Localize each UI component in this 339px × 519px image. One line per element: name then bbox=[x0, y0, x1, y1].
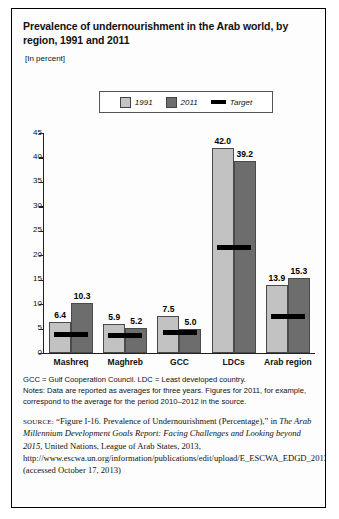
bar-value-label: 5.2 bbox=[130, 316, 142, 326]
bar-value-label: 7.5 bbox=[163, 304, 175, 314]
y-axis-tick-mark bbox=[39, 353, 43, 354]
target-marker bbox=[108, 333, 142, 338]
target-marker bbox=[163, 330, 197, 335]
bar-value-label: 5.9 bbox=[108, 312, 120, 322]
source-text-part-1: “Figure I-16. Prevalence of Undernourish… bbox=[54, 416, 279, 426]
y-axis-tick-mark bbox=[39, 133, 43, 134]
x-axis-label-arab-region: Arab region bbox=[264, 357, 312, 367]
bar-group: 6.410.3 bbox=[44, 133, 98, 353]
x-axis-label-mashreq: Mashreq bbox=[54, 357, 89, 367]
notes-line-1: Notes: Data are reported as averages for… bbox=[23, 386, 317, 397]
bar-1991: 6.4 bbox=[49, 322, 71, 353]
notes-line-2: correspond to the average for the period… bbox=[23, 397, 317, 408]
y-axis-tick-mark bbox=[39, 231, 43, 232]
bar-1991: 5.9 bbox=[103, 324, 125, 353]
figure-container: Prevalence of undernourishment in the Ar… bbox=[11, 8, 326, 508]
y-axis-tick-label: 40 bbox=[14, 152, 42, 161]
bar-1991: 7.5 bbox=[157, 316, 179, 353]
figure-notes: GCC = Gulf Cooperation Council. LDC = Le… bbox=[23, 375, 317, 407]
target-marker bbox=[54, 332, 88, 337]
y-axis-tick-label: 15 bbox=[14, 274, 42, 283]
bar-value-label: 5.0 bbox=[185, 317, 197, 327]
x-axis-line bbox=[43, 353, 315, 354]
y-axis-tick-label: 45 bbox=[14, 128, 42, 137]
bar-group: 13.915.3 bbox=[261, 133, 315, 353]
y-axis-tick-mark bbox=[39, 304, 43, 305]
y-axis-tick-mark bbox=[39, 157, 43, 158]
bar-value-label: 15.3 bbox=[291, 266, 308, 276]
notes-abbreviations: GCC = Gulf Cooperation Council. LDC = Le… bbox=[23, 375, 317, 386]
bar-value-label: 6.4 bbox=[54, 310, 66, 320]
bar-value-label: 10.3 bbox=[74, 291, 91, 301]
figure-source: SOURCE: “Figure I-16. Prevalence of Unde… bbox=[23, 415, 319, 476]
y-axis-tick-label: 0 bbox=[14, 348, 42, 357]
y-axis-tick-mark bbox=[39, 182, 43, 183]
y-axis-tick-mark bbox=[39, 329, 43, 330]
bar-2011: 10.3 bbox=[71, 303, 93, 353]
bar-value-label: 42.0 bbox=[214, 136, 231, 146]
bars-container: 6.410.35.95.27.55.042.039.213.915.3 bbox=[44, 133, 315, 353]
x-axis-label-maghreb: Maghreb bbox=[108, 357, 143, 367]
x-axis-label-gcc: GCC bbox=[170, 357, 189, 367]
bar-2011: 39.2 bbox=[234, 161, 256, 353]
bar-value-label: 39.2 bbox=[236, 149, 253, 159]
source-text-part-2: , United Nations, League of Arab States,… bbox=[23, 441, 326, 476]
source-kicker: SOURCE: bbox=[23, 418, 54, 426]
y-axis-tick-label: 35 bbox=[14, 176, 42, 185]
bar-group: 5.95.2 bbox=[98, 133, 152, 353]
y-axis-tick-mark bbox=[39, 255, 43, 256]
y-axis-tick-mark bbox=[39, 206, 43, 207]
bar-value-label: 13.9 bbox=[269, 273, 286, 283]
y-axis-tick-label: 5 bbox=[14, 323, 42, 332]
y-axis-tick-label: 10 bbox=[14, 299, 42, 308]
bar-group: 7.55.0 bbox=[152, 133, 206, 353]
bar-group: 42.039.2 bbox=[207, 133, 261, 353]
target-marker bbox=[271, 314, 305, 319]
y-axis-tick-label: 30 bbox=[14, 201, 42, 210]
target-marker bbox=[217, 245, 251, 250]
y-axis-tick-mark bbox=[39, 280, 43, 281]
x-axis-label-ldcs: LDCs bbox=[223, 357, 245, 367]
bar-2011: 5.2 bbox=[125, 328, 147, 353]
y-axis-tick-label: 25 bbox=[14, 225, 42, 234]
y-axis-tick-label: 20 bbox=[14, 250, 42, 259]
